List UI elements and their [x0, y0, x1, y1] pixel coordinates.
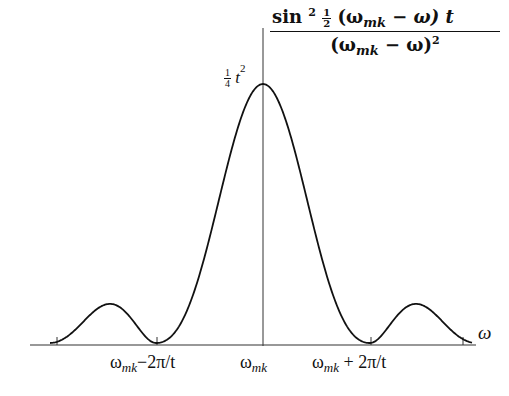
tick-right-base: ω — [312, 352, 324, 372]
tick-left-base: ω — [110, 352, 122, 372]
numerator-subscript: mk — [363, 15, 386, 30]
sin-power: 2 — [308, 6, 316, 19]
tick-left-sub: mk — [122, 360, 137, 375]
quarter-fraction: 1 4 — [224, 68, 231, 89]
function-formula: sin 2 1 2 (ωmk − ω) t (ωmk − ω)2 — [270, 6, 500, 55]
half-fraction: 1 2 — [322, 8, 331, 29]
denominator-power: 2 — [432, 34, 440, 47]
half-numerator: 1 — [322, 8, 331, 19]
numerator-close: − ω) t — [386, 6, 454, 27]
tick-right-suffix: + 2π/t — [339, 352, 386, 372]
sinc-squared-plot — [0, 0, 509, 396]
formula-denominator: (ωmk − ω)2 — [270, 32, 500, 55]
tick-left-suffix: −2π/t — [137, 352, 175, 372]
tick-label-left: ωmk−2π/t — [110, 352, 175, 373]
formula-numerator: sin 2 1 2 (ωmk − ω) t — [270, 6, 500, 31]
peak-label: 1 4 t2 — [224, 66, 245, 89]
peak-power: 2 — [240, 62, 246, 74]
denominator-open: (ω — [330, 34, 356, 55]
denominator-close: − ω) — [379, 34, 432, 55]
tick-right-sub: mk — [324, 360, 339, 375]
half-denominator: 2 — [322, 19, 331, 29]
tick-label-center: ωmk — [240, 352, 267, 373]
sin-text: sin — [272, 6, 302, 27]
tick-label-right: ωmk + 2π/t — [312, 352, 386, 373]
quarter-denominator: 4 — [224, 79, 231, 89]
omega-axis-label: ω — [478, 322, 491, 344]
tick-center-sub: mk — [252, 360, 267, 375]
intensity-curve — [50, 84, 472, 343]
denominator-subscript: mk — [356, 43, 379, 58]
numerator-open: (ω — [338, 6, 364, 27]
tick-center-base: ω — [240, 352, 252, 372]
